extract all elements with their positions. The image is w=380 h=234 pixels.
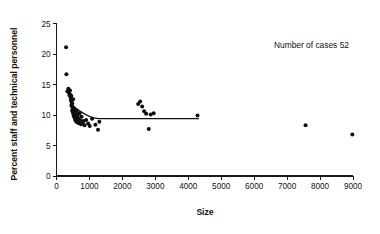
data-point — [152, 111, 156, 115]
data-point — [97, 120, 101, 124]
data-point — [93, 123, 97, 127]
y-tick-label: 25 — [41, 20, 51, 29]
data-point — [71, 97, 75, 101]
x-tick-label: 8000 — [311, 182, 330, 191]
x-axis-title: Size — [196, 207, 213, 217]
y-axis-ticks: 0510152025 — [41, 20, 56, 182]
x-axis-ticks: 0100020003000400050006000700080009000 — [54, 176, 362, 191]
y-axis-title: Percent staff and technical personnel — [9, 28, 19, 181]
fitted-trend-line — [72, 105, 199, 118]
x-tick-label: 7000 — [278, 182, 297, 191]
x-tick-label: 0 — [54, 182, 59, 191]
x-tick-label: 2000 — [113, 182, 132, 191]
x-tick-label: 5000 — [212, 182, 231, 191]
x-tick-label: 1000 — [80, 182, 99, 191]
data-point — [68, 89, 72, 93]
data-point — [140, 104, 144, 108]
scatter-plot-figure: 0510152025 01000200030004000500060007000… — [0, 0, 380, 234]
data-point — [80, 115, 84, 119]
data-point — [83, 123, 87, 127]
y-tick-label: 0 — [46, 172, 51, 181]
data-point — [147, 127, 151, 131]
y-tick-label: 15 — [41, 81, 51, 90]
data-point — [96, 128, 100, 132]
chart-canvas: 0510152025 01000200030004000500060007000… — [0, 0, 380, 234]
data-point — [64, 72, 68, 76]
data-point — [304, 123, 308, 127]
x-tick-label: 3000 — [146, 182, 165, 191]
data-point — [84, 118, 88, 122]
data-point — [64, 45, 68, 49]
x-tick-label: 4000 — [179, 182, 198, 191]
data-point — [70, 101, 74, 105]
x-tick-label: 6000 — [245, 182, 264, 191]
data-point — [196, 114, 200, 118]
x-tick-label: 9000 — [344, 182, 363, 191]
fitted-line — [72, 105, 199, 118]
y-tick-label: 20 — [41, 50, 51, 59]
data-point — [350, 133, 354, 137]
case-count-annotation: Number of cases 52 — [274, 40, 349, 50]
data-points — [64, 45, 354, 136]
data-point — [88, 124, 92, 128]
y-tick-label: 10 — [41, 111, 51, 120]
data-point — [144, 112, 148, 116]
data-point — [138, 100, 142, 104]
y-tick-label: 5 — [46, 142, 51, 151]
